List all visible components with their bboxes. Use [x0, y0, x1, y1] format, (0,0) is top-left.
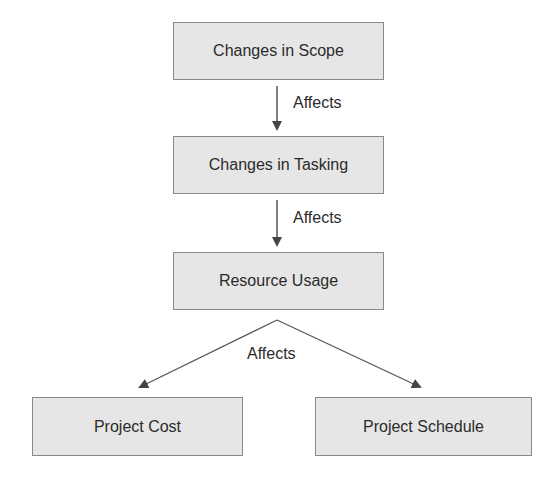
node-resource-usage: Resource Usage [173, 252, 384, 310]
edge-label-affects-1: Affects [293, 94, 342, 112]
node-label: Project Cost [94, 418, 181, 436]
node-label: Changes in Scope [213, 42, 344, 60]
node-changes-in-tasking: Changes in Tasking [173, 136, 384, 194]
edge-label-affects-3: Affects [247, 345, 296, 363]
node-label: Changes in Tasking [209, 156, 348, 174]
arrow-resource-to-schedule [277, 320, 420, 387]
edge-label-affects-2: Affects [293, 209, 342, 227]
node-label: Resource Usage [219, 272, 338, 290]
node-project-schedule: Project Schedule [315, 397, 532, 456]
node-changes-in-scope: Changes in Scope [173, 22, 384, 80]
node-project-cost: Project Cost [32, 397, 243, 456]
node-label: Project Schedule [363, 418, 484, 436]
